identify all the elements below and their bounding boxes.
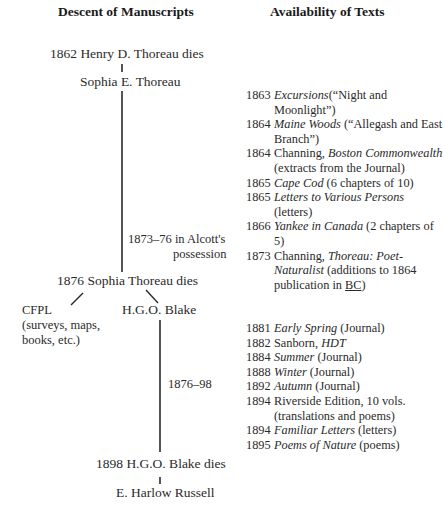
node-hgo-blake: H.G.O. Blake (122, 302, 196, 318)
node-sophia-thoreau: Sophia E. Thoreau (80, 74, 181, 90)
node-1862-thoreau-dies: 1862 Henry D. Thoreau dies (50, 46, 204, 62)
node-e-harlow-russell: E. Harlow Russell (116, 485, 215, 501)
list-item: 1882 Sanborn, HDT (246, 336, 444, 351)
list-item: 1873 Channing, Thoreau: Poet-Naturalist … (246, 249, 444, 293)
node-cfpl: CFPL (22, 303, 52, 318)
title: Maine Woods (274, 117, 341, 131)
list-item: 1892 Autumn (Journal) (246, 379, 444, 394)
availability-list-1863-1873: 1863 Excursions(“Night and Moonlight”) 1… (246, 88, 444, 292)
list-item: 1865 Letters to Various Persons (letters… (246, 190, 444, 219)
title: Letters to Various Persons (274, 190, 404, 204)
title: Yankee in Canada (274, 219, 363, 233)
label-alcott-possession-line2: possession (173, 247, 226, 262)
title: Summer (274, 350, 314, 364)
list-item: 1863 Excursions(“Night and Moonlight”) (246, 88, 444, 117)
node-1876-sophia-dies: 1876 Sophia Thoreau dies (57, 273, 198, 289)
list-item: 1894 Riverside Edition, 10 vols. (transl… (246, 394, 444, 423)
list-item: 1895 Poems of Nature (poems) (246, 438, 444, 453)
list-item: 1864 Maine Woods (“Allegash and East Bra… (246, 117, 444, 146)
title: Familiar Letters (274, 423, 355, 437)
node-1898-blake-dies: 1898 H.G.O. Blake dies (96, 456, 226, 472)
label-alcott-possession-line1: 1873–76 in Alcott's (128, 232, 225, 247)
title: Cape Cod (274, 176, 324, 190)
node-cfpl-detail-1: (surveys, maps, (22, 318, 100, 333)
title: Winter (274, 365, 307, 379)
abbreviation-bc: BC (345, 278, 361, 292)
list-item: 1888 Winter (Journal) (246, 365, 444, 380)
list-item: 1864 Channing, Boston Commonwealth (extr… (246, 146, 444, 175)
list-item: 1865 Cape Cod (6 chapters of 10) (246, 176, 444, 191)
title: Excursions (274, 88, 329, 102)
title: Autumn (274, 379, 312, 393)
node-cfpl-detail-2: books, etc.) (22, 333, 80, 348)
title: Poems of Nature (274, 438, 356, 452)
connector-1876-to-cfpl (71, 293, 83, 305)
list-item: 1866 Yankee in Canada (2 chapters of 5) (246, 219, 444, 248)
title: HDT (321, 336, 346, 350)
title: Early Spring (274, 321, 337, 335)
list-item: 1884 Summer (Journal) (246, 350, 444, 365)
label-blake-span: 1876–98 (168, 377, 212, 392)
title: Boston Commonwealth (328, 146, 442, 160)
availability-list-1881-1895: 1881 Early Spring (Journal) 1882 Sanborn… (246, 321, 444, 452)
list-item: 1881 Early Spring (Journal) (246, 321, 444, 336)
list-item: 1894 Familiar Letters (letters) (246, 423, 444, 438)
